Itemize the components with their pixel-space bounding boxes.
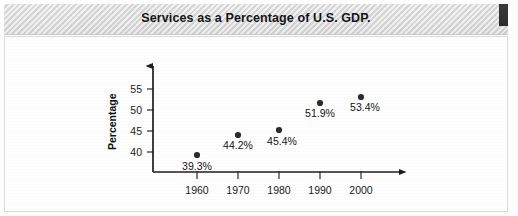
data-label-1970: 44.2% xyxy=(223,139,253,151)
data-point-1970 xyxy=(235,132,241,138)
chart-panel: 40 45 50 55 Percentage 1960 1970 1980 19… xyxy=(4,36,508,212)
data-point-2000 xyxy=(358,94,364,100)
figure-header-band: Services as a Percentage of U.S. GDP. xyxy=(4,4,508,35)
data-point-1960 xyxy=(194,152,200,158)
header-edge-strip xyxy=(499,4,508,26)
x-tick-label-1960: 1960 xyxy=(185,184,209,196)
data-point-1980 xyxy=(276,127,282,133)
y-tick-label-50: 50 xyxy=(130,104,142,116)
data-label-1980: 45.4% xyxy=(267,135,297,147)
data-points xyxy=(194,94,364,158)
y-tick-label-55: 55 xyxy=(130,83,142,95)
y-tick-label-40: 40 xyxy=(130,146,142,158)
x-tick-label-1980: 1980 xyxy=(267,184,291,196)
page-title: Services as a Percentage of U.S. GDP. xyxy=(4,11,508,25)
data-label-1990: 51.9% xyxy=(305,107,335,119)
x-tick-label-1970: 1970 xyxy=(226,184,250,196)
y-tick-label-45: 45 xyxy=(130,125,142,137)
data-point-1990 xyxy=(317,100,323,106)
x-tick-label-2000: 2000 xyxy=(349,184,373,196)
data-label-2000: 53.4% xyxy=(350,101,380,113)
chart-figure: Services as a Percentage of U.S. GDP. xyxy=(0,0,518,216)
y-axis-title: Percentage xyxy=(106,93,118,150)
scatter-plot: 40 45 50 55 Percentage 1960 1970 1980 19… xyxy=(5,37,508,212)
x-tick-label-1990: 1990 xyxy=(308,184,332,196)
data-label-1960: 39.3% xyxy=(182,160,212,172)
